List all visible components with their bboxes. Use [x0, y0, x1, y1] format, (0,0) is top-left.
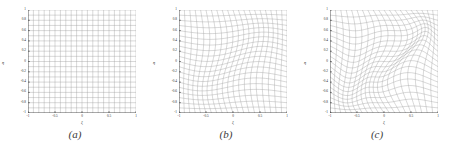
ytick-label: -0.6 [172, 91, 177, 94]
ytick-label: 0.4 [324, 39, 328, 42]
ytick-label: 0.6 [173, 29, 177, 32]
xtick-label: 0.5 [258, 115, 262, 118]
xtick-label: -0.5 [52, 115, 57, 118]
xtick-label: 0.5 [107, 115, 111, 118]
panel-b-ylabel: η [153, 59, 155, 64]
panel-c-xlabel: ξ [383, 120, 385, 125]
ytick-label: 0 [24, 60, 26, 63]
ytick-label: -0.4 [21, 80, 26, 83]
ytick-label: 0.8 [22, 19, 26, 22]
panel-b-ytick-labels: 10.80.60.40.20-0.2-0.4-0.6-0.8-1 [159, 10, 177, 113]
panel-a-mesh-svg [28, 10, 136, 113]
xtick-label: -1 [27, 115, 30, 118]
panel-c-plot-area [330, 10, 438, 113]
mesh-figure: η 10.80.60.40.20-0.2-0.4-0.6-0.8-1 -1-0.… [0, 0, 453, 150]
xtick-label: 0.5 [409, 115, 413, 118]
ytick-label: 0.6 [324, 29, 328, 32]
xtick-label: 1 [135, 115, 137, 118]
panel-a-plot-area [28, 10, 136, 113]
ytick-label: -1 [174, 111, 177, 114]
panel-c: η 10.80.60.40.20-0.2-0.4-0.6-0.8-1 -1-0.… [302, 0, 453, 150]
panel-a-xlabel: ξ [81, 120, 83, 125]
ytick-label: -0.2 [172, 70, 177, 73]
ytick-label: -0.6 [21, 91, 26, 94]
ytick-label: -0.6 [323, 91, 328, 94]
panel-c-mesh-svg [330, 10, 438, 113]
ytick-label: 0.2 [173, 49, 177, 52]
xtick-label: -1 [178, 115, 181, 118]
panel-c-ylabel: η [304, 59, 306, 64]
xtick-label: -1 [329, 115, 332, 118]
panel-a-caption: (a) [69, 128, 82, 140]
ytick-label: -1 [325, 111, 328, 114]
ytick-label: -0.8 [21, 101, 26, 104]
ytick-label: 0.2 [324, 49, 328, 52]
ytick-label: -0.8 [172, 101, 177, 104]
xtick-label: 0 [232, 115, 234, 118]
ytick-label: 1 [326, 8, 328, 11]
ytick-label: 0.8 [324, 19, 328, 22]
ytick-label: -0.2 [323, 70, 328, 73]
panel-b-plot-area [179, 10, 287, 113]
xtick-label: 0 [383, 115, 385, 118]
ytick-label: -1 [23, 111, 26, 114]
ytick-label: -0.8 [323, 101, 328, 104]
ytick-label: -0.4 [323, 80, 328, 83]
ytick-label: -0.2 [21, 70, 26, 73]
panel-a-ytick-labels: 10.80.60.40.20-0.2-0.4-0.6-0.8-1 [8, 10, 26, 113]
ytick-label: 0.2 [22, 49, 26, 52]
ytick-label: 0 [175, 60, 177, 63]
ytick-label: 0.8 [173, 19, 177, 22]
ytick-label: 0.4 [173, 39, 177, 42]
panel-a: η 10.80.60.40.20-0.2-0.4-0.6-0.8-1 -1-0.… [0, 0, 151, 150]
ytick-label: 0.6 [22, 29, 26, 32]
panel-c-caption: (c) [371, 128, 383, 140]
panel-a-ylabel: η [2, 59, 4, 64]
panel-c-ytick-labels: 10.80.60.40.20-0.2-0.4-0.6-0.8-1 [310, 10, 328, 113]
panel-b: η 10.80.60.40.20-0.2-0.4-0.6-0.8-1 -1-0.… [151, 0, 302, 150]
ytick-label: -0.4 [172, 80, 177, 83]
xtick-label: 1 [437, 115, 439, 118]
xtick-label: -0.5 [354, 115, 359, 118]
xtick-label: 0 [81, 115, 83, 118]
xtick-label: 1 [286, 115, 288, 118]
xtick-label: -0.5 [203, 115, 208, 118]
panel-b-caption: (b) [220, 128, 233, 140]
ytick-label: 1 [175, 8, 177, 11]
ytick-label: 0 [326, 60, 328, 63]
panel-b-mesh-svg [179, 10, 287, 113]
ytick-label: 0.4 [22, 39, 26, 42]
panel-b-xlabel: ξ [232, 120, 234, 125]
ytick-label: 1 [24, 8, 26, 11]
